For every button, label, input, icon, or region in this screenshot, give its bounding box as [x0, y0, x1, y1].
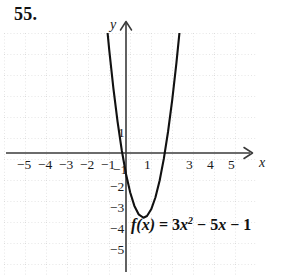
equals-sign: = [159, 216, 168, 233]
function-arg: (x) [136, 216, 155, 233]
y-tick-label--5: −5 [110, 243, 124, 257]
y-tick-label--1: −1 [113, 163, 127, 177]
y-tick-label-1: 1 [118, 126, 125, 140]
x-tick-label-1: 1 [144, 158, 151, 172]
x-tick-label--2: −2 [80, 158, 94, 172]
x-axis-label: x [259, 156, 265, 170]
y-axis-label: y [110, 18, 116, 32]
graph-figure [0, 0, 294, 276]
grid [4, 33, 256, 276]
problem-number: 55. [14, 4, 37, 25]
variable-x-squared: x [180, 216, 188, 233]
x-tick-label-5: 5 [228, 158, 235, 172]
coefficient-a: 3 [172, 216, 180, 233]
minus-sign-1: − [197, 216, 206, 233]
function-equation-label: f(x) = 3x2 − 5x − 1 [131, 216, 251, 233]
x-tick-label--5: −5 [17, 158, 31, 172]
x-tick-label-4: 4 [207, 158, 214, 172]
coefficient-b: 5 [210, 216, 218, 233]
y-tick-label--2: −2 [110, 180, 124, 194]
x-tick-label--3: −3 [59, 158, 73, 172]
constant-term: 1 [243, 216, 251, 233]
x-tick-label-3: 3 [186, 158, 193, 172]
y-tick-label--3: −3 [110, 201, 124, 215]
y-tick-label--4: −4 [110, 222, 124, 236]
x-tick-label--4: −4 [38, 158, 52, 172]
variable-x-linear: x [218, 216, 226, 233]
exponent-2: 2 [188, 215, 193, 226]
minus-sign-2: − [230, 216, 239, 233]
